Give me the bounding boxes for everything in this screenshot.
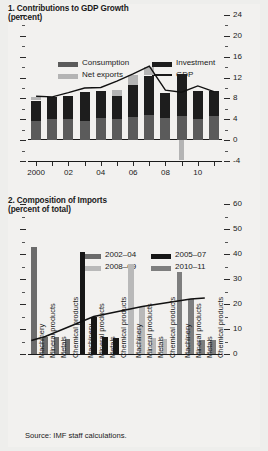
panel1-ytick-minor-left: [22, 109, 25, 110]
panel1-xtick: [52, 162, 53, 166]
panel2-category-label: Mineral products: [48, 303, 57, 358]
panel2-ytick-minor-left: [22, 242, 25, 243]
panel1-ytick-minor-left: [22, 25, 25, 26]
panel1-ytick-minor-left: [22, 46, 25, 47]
panel1-xtick: [198, 162, 199, 166]
panel1-ytick-major-left: [20, 119, 26, 120]
panel2-ytick-major-left: [20, 204, 26, 205]
panel-contributions-to-gdp-growth: 1. Contributions to GDP Growth (percent)…: [8, 4, 260, 190]
panel1-xtick: [214, 162, 215, 166]
panel2-category-label: Machinery: [183, 324, 192, 358]
figure-inner: 1. Contributions to GDP Growth (percent)…: [8, 4, 260, 447]
panel1-xtick: [117, 162, 118, 166]
panel1-ytick-label: 8: [233, 93, 237, 102]
figure-container: 1. Contributions to GDP Growth (percent)…: [0, 0, 268, 451]
panel1-ytick-major-right: [224, 119, 230, 120]
panel2-ytick-minor-left: [22, 342, 25, 343]
panel1-xtick: [133, 162, 134, 166]
panel1-ytick-label: 12: [233, 73, 242, 82]
panel1-ytick-major-right: [224, 161, 230, 162]
panel1-ytick-major-left: [20, 36, 26, 37]
panel1-ytick-minor-left: [22, 88, 25, 89]
panel2-ytick-label: 50: [233, 224, 242, 233]
panel1-ytick-label: -4: [233, 156, 240, 165]
panel1-xtick: [68, 162, 69, 166]
panel1-ytick-minor-left: [22, 130, 25, 131]
panel2-ytick-major-left: [20, 354, 26, 355]
panel2-category-label: Chemical products: [168, 297, 177, 358]
panel2-category-label: Metals: [59, 336, 68, 358]
panel1-xtick-label: 10: [186, 168, 210, 177]
panel1-xtick: [36, 162, 37, 166]
panel1-xtick: [101, 162, 102, 166]
panel1-ytick-major-right: [224, 57, 230, 58]
panel1-xtick-label: 06: [121, 168, 145, 177]
panel1-ytick-label: 24: [233, 10, 242, 19]
panel1-ytick-minor-right: [225, 67, 228, 68]
panel2-ytick-major-right: [224, 229, 230, 230]
source-note: Source: IMF staff calculations.: [25, 431, 127, 440]
panel2-ytick-minor-left: [22, 217, 25, 218]
panel2-category-label: Machinery: [134, 324, 143, 358]
panel1-ytick-minor-right: [225, 130, 228, 131]
panel1-x-axis: [28, 161, 222, 162]
panel2-ytick-label: 40: [233, 249, 242, 258]
panel1-gdp-line: [28, 15, 222, 161]
panel2-category-label: Mineral products: [145, 303, 154, 358]
panel1-xtick-label: 04: [89, 168, 113, 177]
panel2-category-label: Chemical products: [119, 297, 128, 358]
panel2-ytick-label: 0: [233, 349, 237, 358]
panel1-ytick-major-right: [224, 36, 230, 37]
panel1-ytick-label: 0: [233, 135, 237, 144]
panel1-ytick-major-right: [224, 140, 230, 141]
panel1-ytick-minor-right: [225, 151, 228, 152]
panel1-xtick: [182, 162, 183, 166]
panel2-ytick-label: 30: [233, 274, 242, 283]
panel1-ytick-minor-left: [22, 151, 25, 152]
panel1-ytick-minor-right: [225, 88, 228, 89]
panel2-category-label: Chemical products: [216, 297, 225, 358]
panel1-ytick-minor-right: [225, 25, 228, 26]
panel2-ytick-major-left: [20, 329, 26, 330]
panel1-ytick-major-left: [20, 140, 26, 141]
panel2-ytick-minor-right: [225, 242, 228, 243]
panel2-ytick-major-left: [20, 304, 26, 305]
panel1-ytick-major-right: [224, 98, 230, 99]
panel2-category-label: Mineral products: [97, 303, 106, 358]
panel1-ytick-major-right: [224, 15, 230, 16]
panel2-ytick-major-right: [224, 279, 230, 280]
panel1-ytick-major-left: [20, 15, 26, 16]
panel1-ytick-major-left: [20, 161, 26, 162]
panel2-ytick-label: 60: [233, 199, 242, 208]
panel1-ytick-label: 16: [233, 52, 242, 61]
panel2-ytick-minor-left: [22, 292, 25, 293]
panel2-ytick-minor-right: [225, 217, 228, 218]
panel2-ytick-label: 10: [233, 324, 242, 333]
panel2-category-label: Metals: [108, 336, 117, 358]
panel2-ytick-major-right: [224, 204, 230, 205]
panel2-ytick-major-left: [20, 229, 26, 230]
panel2-ytick-major-left: [20, 254, 26, 255]
panel2-ytick-minor-left: [22, 317, 25, 318]
panel2-category-label: Metals: [205, 336, 214, 358]
panel2-ytick-minor-right: [225, 292, 228, 293]
panel2-ytick-minor-left: [22, 267, 25, 268]
panel2-ytick-minor-right: [225, 317, 228, 318]
panel1-xtick: [85, 162, 86, 166]
panel1-xtick-label: 2000: [24, 168, 48, 177]
panel2-ytick-major-right: [224, 254, 230, 255]
panel2-category-label: Machinery: [86, 324, 95, 358]
panel1-ytick-major-right: [224, 78, 230, 79]
panel2-category-label: Machinery: [37, 324, 46, 358]
panel1-ytick-label: 4: [233, 114, 237, 123]
panel1-xtick-label: 08: [153, 168, 177, 177]
panel2-ytick-minor-right: [225, 342, 228, 343]
panel2-ytick-label: 20: [233, 299, 242, 308]
panel1-ytick-major-left: [20, 98, 26, 99]
panel1-xtick: [165, 162, 166, 166]
panel2-ytick-major-left: [20, 279, 26, 280]
panel2-ytick-minor-right: [225, 267, 228, 268]
panel1-ytick-minor-left: [22, 67, 25, 68]
panel1-xtick-label: 02: [56, 168, 80, 177]
panel1-title: 1. Contributions to GDP Growth: [8, 4, 260, 13]
